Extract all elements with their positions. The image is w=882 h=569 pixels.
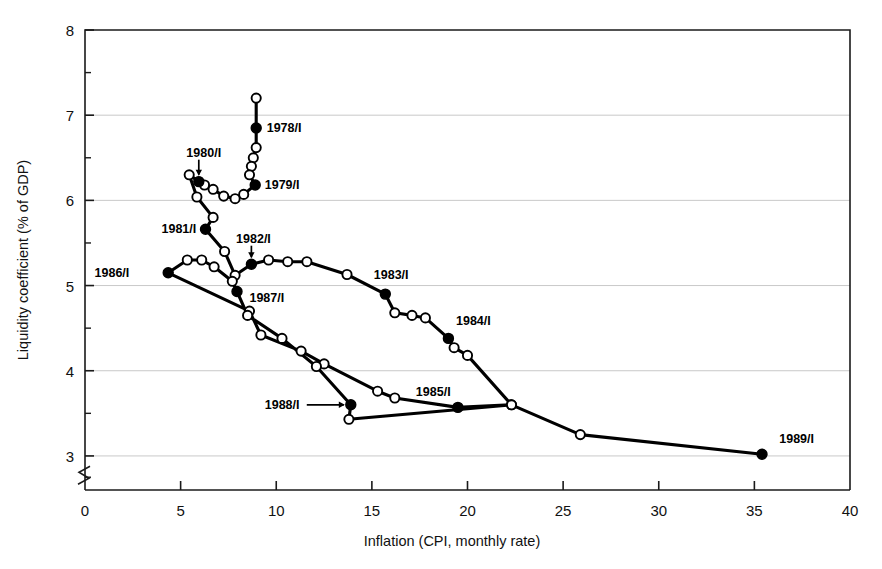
y-tick-label: 4 xyxy=(66,363,74,380)
data-point-filled xyxy=(453,402,463,412)
x-tick-label: 30 xyxy=(650,502,667,519)
data-point-open xyxy=(252,94,261,103)
data-point-filled xyxy=(201,224,211,234)
data-point-filled xyxy=(246,259,256,269)
data-point-filled xyxy=(250,180,260,190)
data-point-open xyxy=(390,393,399,402)
data-point-open xyxy=(277,334,286,343)
x-tick-label: 40 xyxy=(842,502,859,519)
point-label: 1987/I xyxy=(249,291,284,305)
data-point-open xyxy=(256,330,265,339)
data-point-open xyxy=(264,255,273,264)
point-label: 1985/I xyxy=(416,385,451,399)
point-label: 1984/I xyxy=(456,314,491,328)
data-point-open xyxy=(297,347,306,356)
data-point-open xyxy=(312,362,321,371)
point-label: 1983/I xyxy=(374,268,409,282)
point-label: 1982/I xyxy=(236,232,271,246)
data-point-filled xyxy=(251,123,261,133)
data-point-filled xyxy=(194,177,204,187)
x-axis-title: Inflation (CPI, monthly rate) xyxy=(364,533,541,549)
scatter-line-plot: 345678 0510152025303540 1978/I1979/I1980… xyxy=(0,0,882,569)
data-point-open xyxy=(197,255,206,264)
data-point-open xyxy=(209,213,218,222)
x-tick-label: 15 xyxy=(364,502,381,519)
data-point-open xyxy=(283,257,292,266)
data-point-filled xyxy=(443,333,453,343)
x-tick-label: 5 xyxy=(176,502,184,519)
data-point-filled xyxy=(757,449,767,459)
y-tick-label: 7 xyxy=(66,107,74,124)
x-tick-label: 0 xyxy=(81,502,89,519)
data-point-open xyxy=(373,387,382,396)
x-tick-label: 35 xyxy=(746,502,763,519)
point-label: 1979/I xyxy=(265,178,300,192)
y-tick-label: 5 xyxy=(66,278,74,295)
y-tick-label: 8 xyxy=(66,22,74,39)
data-point-open xyxy=(231,194,240,203)
y-tick-label: 3 xyxy=(66,448,74,465)
data-point-open xyxy=(243,311,252,320)
data-point-open xyxy=(185,170,194,179)
data-point-filled xyxy=(380,289,390,299)
data-point-open xyxy=(220,247,229,256)
data-point-open xyxy=(252,143,261,152)
data-point-open xyxy=(421,313,430,322)
data-point-open xyxy=(344,415,353,424)
data-point-open xyxy=(576,430,585,439)
data-point-open xyxy=(407,311,416,320)
data-point-open xyxy=(390,308,399,317)
data-point-open xyxy=(302,257,311,266)
data-point-open xyxy=(507,400,516,409)
point-label: 1989/I xyxy=(779,432,814,446)
y-tick-label: 6 xyxy=(66,192,74,209)
point-label: 1986/I xyxy=(95,266,130,280)
point-label: 1980/I xyxy=(186,146,221,160)
data-point-open xyxy=(183,255,192,264)
point-label: 1981/I xyxy=(162,222,197,236)
data-point-open xyxy=(228,277,237,286)
point-label: 1978/I xyxy=(267,121,302,135)
data-point-open xyxy=(219,192,228,201)
data-point-open xyxy=(342,270,351,279)
data-point-filled xyxy=(163,268,173,278)
data-point-open xyxy=(210,262,219,271)
chart-figure: 345678 0510152025303540 1978/I1979/I1980… xyxy=(0,0,882,569)
point-label: 1988/I xyxy=(265,398,300,412)
data-point-open xyxy=(463,351,472,360)
data-point-filled xyxy=(232,287,242,297)
chart-background xyxy=(0,0,882,569)
x-tick-label: 20 xyxy=(459,502,476,519)
data-point-open xyxy=(245,170,254,179)
data-point-open xyxy=(450,343,459,352)
data-point-open xyxy=(192,192,201,201)
x-tick-label: 10 xyxy=(268,502,285,519)
x-tick-label: 25 xyxy=(555,502,572,519)
y-axis-title: Liquidity coefficient (% of GDP) xyxy=(15,160,31,360)
data-point-filled xyxy=(346,400,356,410)
